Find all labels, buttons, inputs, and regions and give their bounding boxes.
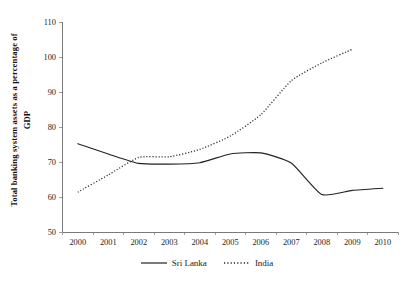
legend-swatch-solid [141, 259, 167, 267]
series-line-india [78, 49, 353, 192]
x-tick-label: 2004 [191, 238, 209, 247]
x-axis-ticks: 2000200120022003200420052006200720082009… [63, 232, 399, 247]
y-tick-label: 110 [44, 18, 56, 27]
y-tick-label: 50 [48, 228, 56, 237]
x-tick-label: 2005 [222, 238, 239, 247]
data-series-group [78, 49, 383, 195]
chart-legend: Sri Lanka India [0, 258, 414, 268]
x-tick-label: 2002 [130, 238, 147, 247]
line-chart-plot: 5060708090100110 20002001200220032004200… [0, 0, 414, 284]
y-tick-label: 90 [48, 88, 56, 97]
x-tick-label: 2010 [374, 238, 391, 247]
y-tick-label: 60 [48, 193, 56, 202]
chart-figure: Total banking system assets as a percent… [0, 0, 414, 284]
legend-item-sri-lanka: Sri Lanka [141, 258, 207, 268]
x-tick-label: 2003 [161, 238, 178, 247]
x-tick-label: 2007 [283, 238, 300, 247]
x-tick-label: 2008 [313, 238, 330, 247]
legend-label-india: India [255, 258, 274, 268]
x-tick-label: 2000 [69, 238, 86, 247]
legend-swatch-dotted [224, 259, 250, 267]
y-tick-label: 100 [43, 53, 56, 62]
legend-label-sri-lanka: Sri Lanka [172, 258, 207, 268]
y-tick-label: 70 [48, 158, 56, 167]
x-tick-label: 2009 [344, 238, 361, 247]
series-line-sri-lanka [78, 144, 383, 195]
y-axis-ticks: 5060708090100110 [43, 18, 62, 237]
x-tick-label: 2006 [252, 238, 269, 247]
x-tick-label: 2001 [100, 238, 117, 247]
y-tick-label: 80 [48, 123, 56, 132]
legend-item-india: India [224, 258, 274, 268]
